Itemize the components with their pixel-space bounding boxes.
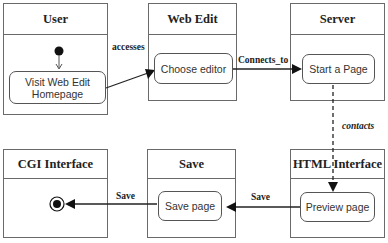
edge-label-accesses: accesses — [112, 42, 145, 52]
final-node-icon — [50, 197, 64, 211]
activity-start-page[interactable]: Start a Page — [302, 54, 375, 84]
activity-save-page[interactable]: Save page — [158, 191, 222, 221]
activity-save-page-label: Save page — [165, 200, 215, 212]
activity-start-page-label: Start a Page — [309, 63, 367, 75]
activity-preview-page[interactable]: Preview page — [300, 192, 375, 222]
activity-visit-line1: Visit Web Edit — [25, 76, 90, 88]
initial-node-icon — [55, 47, 64, 56]
edge-label-save-left: Save — [116, 191, 135, 201]
edge-label-contacts: contacts — [342, 121, 374, 131]
edge-label-save-right: Save — [251, 192, 270, 202]
activity-visit-line2: Homepage — [32, 88, 83, 100]
activity-choose-editor-label: Choose editor — [161, 63, 226, 75]
activity-preview-page-label: Preview page — [306, 201, 370, 213]
edge-accesses — [106, 73, 148, 88]
activity-visit-homepage[interactable]: Visit Web Edit Homepage — [9, 71, 106, 104]
edge-label-connects-to: Connects_to — [238, 55, 288, 65]
activity-choose-editor[interactable]: Choose editor — [154, 53, 233, 84]
